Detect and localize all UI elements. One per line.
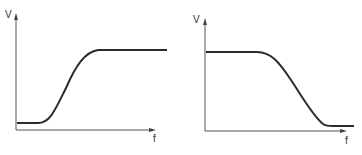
right-graph: V f <box>181 0 362 155</box>
x-axis-label: f <box>153 134 156 144</box>
response-curve <box>206 52 354 126</box>
x-axis-arrow-icon <box>149 128 156 132</box>
left-graph: V f <box>0 0 181 155</box>
right-graph-plot <box>181 0 362 155</box>
y-axis-label: V <box>5 10 12 20</box>
response-curve <box>17 50 167 123</box>
x-axis-label: f <box>345 136 348 146</box>
x-axis-arrow-icon <box>340 129 347 133</box>
left-graph-plot <box>0 0 181 155</box>
y-axis-arrow-icon <box>203 18 207 25</box>
y-axis-label: V <box>193 15 200 25</box>
y-axis-arrow-icon <box>14 13 18 20</box>
